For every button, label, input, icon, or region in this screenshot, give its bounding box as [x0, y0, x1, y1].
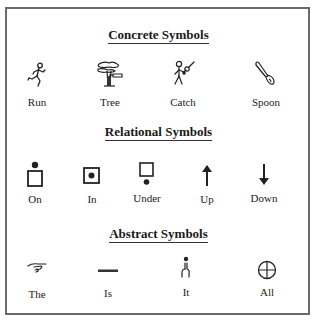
section-title-abstract: Abstract Symbols — [0, 226, 317, 241]
catching-figure-icon — [170, 60, 196, 88]
symbol-label: Spoon — [236, 96, 296, 108]
symbol-the — [7, 262, 67, 274]
symbol-all — [237, 259, 297, 281]
pointing-hand-icon — [26, 262, 48, 274]
symbol-label: On — [5, 193, 65, 205]
dot-on-box-icon — [25, 161, 45, 191]
dot-under-box-icon — [137, 161, 157, 189]
symbol-label: Tree — [80, 96, 140, 108]
section-title-concrete: Concrete Symbols — [0, 27, 317, 42]
symbol-label: It — [156, 286, 216, 298]
dot-in-box-icon — [82, 166, 102, 186]
symbol-label: Run — [7, 96, 67, 108]
arrow-up-icon — [200, 163, 214, 187]
symbol-on — [5, 161, 65, 191]
arrow-down-icon — [257, 163, 271, 187]
symbol-under — [117, 161, 177, 189]
section-title-text: Relational Symbols — [105, 124, 212, 141]
symbol-label: The — [7, 288, 67, 300]
symbol-is — [78, 268, 138, 274]
section-title-relational: Relational Symbols — [0, 124, 317, 139]
symbol-tree — [80, 60, 140, 88]
circle-cross-icon — [256, 259, 278, 281]
symbol-spoon — [236, 60, 296, 88]
symbol-down — [234, 163, 294, 187]
symbol-it — [156, 256, 216, 280]
symbol-in — [62, 166, 122, 186]
symbol-up — [177, 163, 237, 187]
symbol-label: Up — [177, 193, 237, 205]
pointing-finger-dot-icon — [179, 256, 193, 280]
symbol-label: Catch — [153, 96, 213, 108]
symbol-label: All — [237, 286, 297, 298]
symbol-run — [7, 62, 67, 88]
symbol-label: Under — [117, 192, 177, 204]
horizontal-bar-icon — [96, 268, 120, 274]
tree-icon — [95, 60, 125, 88]
running-figure-icon — [25, 62, 49, 88]
symbol-label: Down — [234, 192, 294, 204]
symbol-label: Is — [78, 287, 138, 299]
spoon-icon — [253, 60, 279, 88]
section-title-text: Abstract Symbols — [109, 226, 208, 243]
symbol-label: In — [62, 193, 122, 205]
symbol-catch — [153, 60, 213, 88]
section-title-text: Concrete Symbols — [108, 27, 209, 44]
